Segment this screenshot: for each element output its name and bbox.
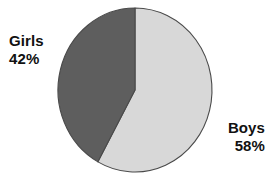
pie-label-girls-name: Girls [9, 32, 44, 50]
pie-label-boys-percent: 58% [228, 137, 265, 155]
pie-label-girls: Girls 42% [9, 32, 44, 68]
pie-label-girls-percent: 42% [9, 50, 44, 68]
pie-chart: Girls 42% Boys 58% [0, 0, 268, 179]
pie-label-boys-name: Boys [228, 119, 265, 137]
pie-label-boys: Boys 58% [228, 119, 265, 155]
